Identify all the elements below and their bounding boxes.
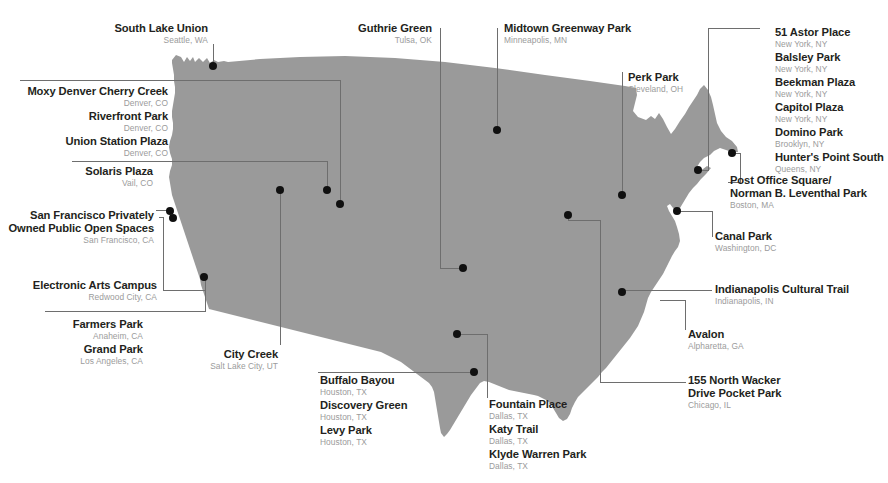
entry-title: Beekman Plaza xyxy=(775,76,888,89)
callout-entry: Discovery Green Houston, TX xyxy=(320,399,490,423)
entry-title: 155 North Wacker xyxy=(688,374,848,387)
marker-dot-san-francisco[interactable] xyxy=(166,207,174,215)
entry-subtitle: Brooklyn, NY xyxy=(775,139,888,150)
entry-title: Indianapolis Cultural Trail xyxy=(715,283,885,296)
entry-title: San Francisco Privately Owned Public Ope… xyxy=(0,209,154,235)
callout-tulsa-group[interactable]: Guthrie Green Tulsa, OK xyxy=(300,22,432,47)
callout-dallas-group[interactable]: Fountain Place Dallas, TX Katy Trail Dal… xyxy=(489,398,669,473)
entry-subtitle: New York, NY xyxy=(775,114,888,125)
callout-entry: Beekman Plaza New York, NY xyxy=(775,76,888,100)
entry-title: South Lake Union xyxy=(0,22,208,35)
callout-entry: Canal Park Washington, DC xyxy=(715,230,845,254)
entry-subtitle: Minneapolis, MN xyxy=(504,35,704,46)
entry-title: Union Station Plaza xyxy=(0,135,168,148)
entry-subtitle: Vail, CO xyxy=(0,178,153,189)
entry-title: Domino Park xyxy=(775,126,888,139)
callout-chicago-group[interactable]: 155 North Wacker Drive Pocket Park Chica… xyxy=(688,374,848,412)
entry-title: Electronic Arts Campus xyxy=(0,279,157,292)
marker-dot-boston[interactable] xyxy=(728,149,736,157)
callout-boston-group[interactable]: Post Office Square/ Norman B. Leventhal … xyxy=(730,174,888,212)
callout-atlanta-group[interactable]: Avalon Alpharetta, GA xyxy=(688,328,818,353)
entry-title: Guthrie Green xyxy=(300,22,432,35)
callout-new-york-group[interactable]: 51 Astor Place New York, NY Balsley Park… xyxy=(775,26,888,176)
callout-entry: Riverfront Park Denver, CO xyxy=(0,110,168,134)
callout-entry: Klyde Warren Park Dallas, TX xyxy=(489,448,669,472)
callout-entry: Avalon Alpharetta, GA xyxy=(688,328,818,352)
entry-title: Farmers Park xyxy=(0,318,143,331)
marker-dot-redwood-city[interactable] xyxy=(169,214,177,222)
entry-title: Riverfront Park xyxy=(0,110,168,123)
entry-subtitle: Seattle, WA xyxy=(0,35,208,46)
marker-dot-chicago[interactable] xyxy=(564,211,572,219)
entry-subtitle: Washington, DC xyxy=(715,243,845,254)
entry-subtitle: Tulsa, OK xyxy=(300,35,432,46)
marker-dot-vail[interactable] xyxy=(323,186,331,194)
callout-vail-group[interactable]: Solaris Plaza Vail, CO xyxy=(0,165,153,190)
marker-dot-washington[interactable] xyxy=(673,207,681,215)
entry-subtitle: Indianapolis, IN xyxy=(715,296,885,307)
entry-title: Perk Park xyxy=(628,71,758,84)
entry-title: Levy Park xyxy=(320,424,490,437)
callout-entry: Farmers Park Anaheim, CA xyxy=(0,318,143,342)
entry-title: Midtown Greenway Park xyxy=(504,22,704,35)
callout-entry: Moxy Denver Cherry Creek Denver, CO xyxy=(0,85,168,109)
entry-subtitle: Houston, TX xyxy=(320,437,490,448)
entry-subtitle: Anaheim, CA xyxy=(0,331,143,342)
callout-entry: Electronic Arts Campus Redwood City, CA xyxy=(0,279,157,303)
callout-socal-group[interactable]: Farmers Park Anaheim, CA Grand Park Los … xyxy=(0,318,143,368)
entry-subtitle: New York, NY xyxy=(775,64,888,75)
entry-subtitle: San Francisco, CA xyxy=(0,235,154,246)
callout-entry: 51 Astor Place New York, NY xyxy=(775,26,888,50)
entry-subtitle: New York, NY xyxy=(775,89,888,100)
callout-washington-group[interactable]: Canal Park Washington, DC xyxy=(715,230,845,255)
marker-dot-cleveland[interactable] xyxy=(618,191,626,199)
entry-subtitle: Denver, CO xyxy=(0,123,168,134)
marker-dot-minneapolis[interactable] xyxy=(493,126,501,134)
entry-title: Solaris Plaza xyxy=(0,165,153,178)
entry-subtitle: Dallas, TX xyxy=(489,411,669,422)
callout-houston-group[interactable]: Buffalo Bayou Houston, TX Discovery Gree… xyxy=(320,374,490,449)
entry-subtitle: Los Angeles, CA xyxy=(0,356,143,367)
callout-denver-group[interactable]: Moxy Denver Cherry Creek Denver, CO Rive… xyxy=(0,85,168,160)
entry-title-line2: Drive Pocket Park xyxy=(688,387,848,400)
marker-dot-indianapolis[interactable] xyxy=(618,288,626,296)
marker-dot-seattle[interactable] xyxy=(209,62,217,70)
entry-title: Discovery Green xyxy=(320,399,490,412)
entry-subtitle: Chicago, IL xyxy=(688,400,848,411)
callout-entry: Midtown Greenway Park Minneapolis, MN xyxy=(504,22,704,46)
callout-cleveland-group[interactable]: Perk Park Cleveland, OH xyxy=(628,71,758,96)
callout-salt-lake-group[interactable]: City Creek Salt Lake City, UT xyxy=(158,348,278,373)
map-callout-figure: South Lake Union Seattle, WA Moxy Denver… xyxy=(0,0,888,483)
callout-entry: Grand Park Los Angeles, CA xyxy=(0,343,143,367)
marker-dot-new-york[interactable] xyxy=(694,166,702,174)
entry-subtitle: Redwood City, CA xyxy=(0,292,157,303)
callout-san-francisco-group[interactable]: San Francisco Privately Owned Public Ope… xyxy=(0,209,154,247)
entry-title: Klyde Warren Park xyxy=(489,448,669,461)
callout-entry: Perk Park Cleveland, OH xyxy=(628,71,758,95)
entry-title: 51 Astor Place xyxy=(775,26,888,39)
entry-title: Katy Trail xyxy=(489,423,669,436)
callout-entry: Katy Trail Dallas, TX xyxy=(489,423,669,447)
callout-south-lake-union[interactable]: South Lake Union Seattle, WA xyxy=(0,22,208,47)
callout-indianapolis-group[interactable]: Indianapolis Cultural Trail Indianapolis… xyxy=(715,283,885,308)
marker-dot-tulsa[interactable] xyxy=(459,264,467,272)
marker-dot-denver[interactable] xyxy=(336,200,344,208)
callout-entry: Hunter's Point South Queens, NY xyxy=(775,151,888,175)
callout-entry: Indianapolis Cultural Trail Indianapolis… xyxy=(715,283,885,307)
entry-title: Avalon xyxy=(688,328,818,341)
entry-title: Canal Park xyxy=(715,230,845,243)
marker-dot-salt-lake-city[interactable] xyxy=(276,186,284,194)
entry-subtitle: Alpharetta, GA xyxy=(688,341,818,352)
callout-entry: Union Station Plaza Denver, CO xyxy=(0,135,168,159)
callout-minneapolis-group[interactable]: Midtown Greenway Park Minneapolis, MN xyxy=(504,22,704,47)
entry-subtitle: Dallas, TX xyxy=(489,461,669,472)
callout-entry: Post Office Square/ Norman B. Leventhal … xyxy=(730,174,888,211)
callout-redwood-city-group[interactable]: Electronic Arts Campus Redwood City, CA xyxy=(0,279,157,304)
marker-dot-los-angeles[interactable] xyxy=(200,273,208,281)
marker-dot-dallas[interactable] xyxy=(453,330,461,338)
callout-entry: Buffalo Bayou Houston, TX xyxy=(320,374,490,398)
entry-title-line2: Norman B. Leventhal Park xyxy=(730,187,888,200)
entry-title: Moxy Denver Cherry Creek xyxy=(0,85,168,98)
entry-subtitle: Cleveland, OH xyxy=(628,84,758,95)
entry-subtitle: Denver, CO xyxy=(0,98,168,109)
